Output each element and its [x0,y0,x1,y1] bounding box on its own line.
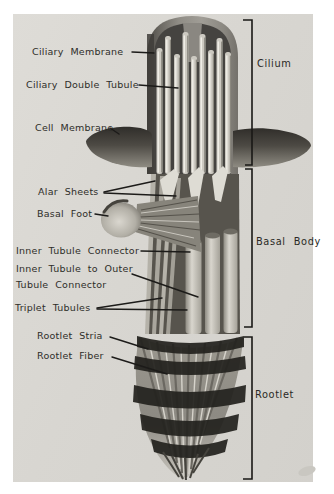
label-basal-foot: Basal Foot [37,208,92,219]
leader-ciliary-membrane [132,52,154,53]
label-cell-membrane: Cell Membrane [35,122,113,133]
section-label-basal-body: Basal Body [256,236,321,247]
label-alar-sheets: Alar Sheets [38,186,99,197]
basal-body-bundle [145,166,240,334]
label-rootlet-stria: Rootlet Stria [37,330,103,341]
rootlet-bundle [133,336,246,480]
label-tubule-connector: Tubule Connector [16,279,106,290]
section-label-rootlet: Rootlet [255,389,294,400]
figure-page: Ciliary Membrane Ciliary Double Tubule C… [0,0,334,494]
label-ciliary-membrane: Ciliary Membrane [32,46,123,57]
section-label-cilium: Cilium [257,58,291,69]
label-triplet-tubules: Triplet Tubules [15,302,90,313]
label-rootlet-fiber: Rootlet Fiber [37,350,104,361]
scan-smudge [297,464,317,478]
leader-alar-sheets-1 [104,181,155,192]
leader-inner-tubule-connector [141,251,190,252]
leader-triplet-tubules-2 [97,309,187,310]
label-inner-tubule-connector: Inner Tubule Connector [16,245,139,256]
label-ciliary-double-tubule: Ciliary Double Tubule [26,79,139,90]
bracket-basal-body [244,169,252,327]
section-brackets [243,20,252,479]
label-inner-tubule-to-outer: Inner Tubule to Outer [16,263,133,274]
cell-membrane-right-wing [233,128,311,167]
